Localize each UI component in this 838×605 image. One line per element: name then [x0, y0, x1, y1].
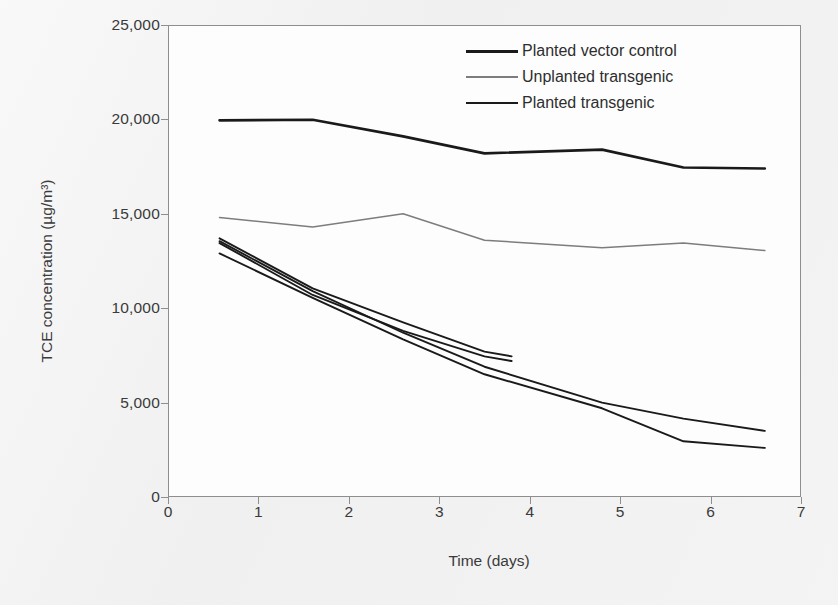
y-axis-tick-mark [161, 308, 168, 309]
x-axis-tick-mark [711, 497, 712, 504]
page-background: TCE concentration (µg/m³) 05,00010,00015… [0, 0, 838, 605]
legend-label-unplanted-transgenic: Unplanted transgenic [522, 68, 673, 86]
x-axis-tick-mark [530, 497, 531, 504]
y-axis-title: TCE concentration (µg/m³) [38, 121, 56, 421]
x-axis-tick-label: 3 [419, 503, 459, 521]
x-axis-title-text: Time (days) [308, 552, 529, 569]
y-axis-tick-label: 5,000 [86, 394, 160, 412]
y-axis-tick-mark [161, 214, 168, 215]
x-axis-tick-label: 7 [781, 503, 821, 521]
legend-label-planted-transgenic: Planted transgenic [522, 94, 655, 112]
y-axis-tick-mark [161, 403, 168, 404]
x-axis-tick-mark [620, 497, 621, 504]
legend-swatch-planted-transgenic [466, 102, 518, 104]
x-axis-title: Time (days) [0, 552, 838, 570]
series-line-planted-transgenic-rep-2 [220, 243, 512, 361]
x-axis-tick-label: 1 [238, 503, 278, 521]
x-axis-tick-label: 0 [148, 503, 188, 521]
x-axis-tick-mark [439, 497, 440, 504]
series-line-planted-transgenic-rep-3 [220, 241, 765, 431]
legend-item-planted-transgenic: Planted transgenic [466, 90, 766, 116]
y-axis-tick-mark [161, 119, 168, 120]
y-axis-tick-label: 15,000 [86, 205, 160, 223]
legend-swatch-planted-vector-control [466, 50, 518, 53]
y-axis-tick-label: 20,000 [86, 110, 160, 128]
x-axis-tick-mark [168, 497, 169, 504]
legend-swatch-unplanted-transgenic [466, 76, 518, 78]
series-line-planted-vector-control [220, 120, 765, 169]
series-line-unplanted-transgenic [220, 214, 765, 251]
y-axis-tick-mark [161, 497, 168, 498]
x-axis-tick-label: 4 [510, 503, 550, 521]
chart-figure: TCE concentration (µg/m³) 05,00010,00015… [0, 0, 838, 605]
legend-item-planted-vector-control: Planted vector control [466, 38, 766, 64]
series-line-planted-transgenic-rep-1 [220, 238, 512, 356]
y-axis-tick-mark [161, 25, 168, 26]
y-axis-tick-label: 10,000 [86, 299, 160, 317]
x-axis-tick-mark [349, 497, 350, 504]
chart-legend: Planted vector controlUnplanted transgen… [466, 38, 766, 116]
legend-label-planted-vector-control: Planted vector control [522, 42, 677, 60]
x-axis-tick-label: 6 [691, 503, 731, 521]
x-axis-tick-mark [801, 497, 802, 504]
y-axis-tick-label: 25,000 [86, 16, 160, 34]
legend-item-unplanted-transgenic: Unplanted transgenic [466, 64, 766, 90]
x-axis-tick-mark [258, 497, 259, 504]
x-axis-tick-label: 2 [329, 503, 369, 521]
x-axis-tick-label: 5 [600, 503, 640, 521]
